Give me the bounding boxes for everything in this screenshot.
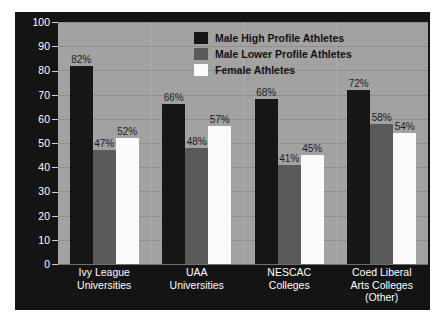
y-axis-tick: 80 <box>38 64 58 76</box>
bar[interactable]: 66% <box>162 104 185 264</box>
bar[interactable]: 41% <box>278 165 301 264</box>
bar-value-label: 66% <box>164 92 184 103</box>
bar[interactable]: 68% <box>255 99 278 264</box>
y-axis-tick-label: 20 <box>38 210 52 222</box>
bar-value-label: 72% <box>349 78 369 89</box>
bar[interactable]: 72% <box>347 90 370 264</box>
x-axis-category-line: Arts Colleges <box>336 279 429 292</box>
legend-item[interactable]: Female Athletes <box>194 63 352 76</box>
y-axis-tick-label: 60 <box>38 113 52 125</box>
y-axis-tick-label: 100 <box>32 16 52 28</box>
x-axis-category-line: NESCAC <box>243 266 336 279</box>
y-axis-tick: 10 <box>38 234 58 246</box>
plot-area: 82%47%52%66%48%57%68%41%45%72%58%54% Mal… <box>58 22 428 264</box>
y-axis-tick: 0 <box>44 258 58 270</box>
y-axis-tick-label: 80 <box>38 64 52 76</box>
bar-value-label: 58% <box>372 112 392 123</box>
x-axis-category-line: Universities <box>151 279 244 292</box>
legend-color-swatch <box>194 32 208 44</box>
y-axis-tick: 20 <box>38 210 58 222</box>
bar-value-label: 57% <box>210 114 230 125</box>
y-axis-tick: 40 <box>38 161 58 173</box>
y-axis-tick-label: 10 <box>38 234 52 246</box>
x-axis-category-label: Ivy LeagueUniversities <box>58 266 151 291</box>
y-axis-tick-label: 50 <box>38 137 52 149</box>
x-axis-category-label: Coed LiberalArts Colleges(Other) <box>336 266 429 304</box>
y-axis-tick-label: 0 <box>44 258 52 270</box>
bar-value-label: 45% <box>302 143 322 154</box>
bar[interactable]: 52% <box>116 138 139 264</box>
y-axis-tick-label: 40 <box>38 161 52 173</box>
y-axis-tick: 30 <box>38 185 58 197</box>
bar-value-label: 48% <box>187 136 207 147</box>
x-axis-category-line: Coed Liberal <box>336 266 429 279</box>
y-axis-tick-label: 30 <box>38 185 52 197</box>
bar-value-label: 82% <box>71 54 91 65</box>
x-axis-category-line: Universities <box>58 279 151 292</box>
chart-legend: Male High Profile AthletesMale Lower Pro… <box>194 31 352 76</box>
gridline <box>58 264 428 265</box>
legend-label: Male Lower Profile Athletes <box>215 48 352 60</box>
bar-value-label: 52% <box>117 126 137 137</box>
bar[interactable]: 57% <box>208 126 231 264</box>
legend-color-swatch <box>194 48 208 60</box>
bar[interactable]: 45% <box>301 155 324 264</box>
bar-value-label: 41% <box>279 153 299 164</box>
bar[interactable]: 58% <box>370 124 393 264</box>
bar-value-label: 68% <box>256 87 276 98</box>
bar[interactable]: 47% <box>93 150 116 264</box>
x-axis-category-label: UAAUniversities <box>151 266 244 291</box>
y-axis-tick-label: 70 <box>38 89 52 101</box>
y-axis-tick-labels: 0102030405060708090100 <box>15 12 58 264</box>
x-axis-category-line: Colleges <box>243 279 336 292</box>
legend-label: Male High Profile Athletes <box>215 32 344 44</box>
x-axis-category-labels: Ivy LeagueUniversitiesUAAUniversitiesNES… <box>58 266 428 310</box>
x-axis-category-line: Ivy League <box>58 266 151 279</box>
legend-color-swatch <box>194 64 208 76</box>
x-axis-category-line: (Other) <box>336 291 429 304</box>
y-axis-tick: 100 <box>32 16 58 28</box>
bar-value-label: 47% <box>94 138 114 149</box>
y-axis-tick: 90 <box>38 40 58 52</box>
bar-value-label: 54% <box>395 121 415 132</box>
x-axis-category-label: NESCACColleges <box>243 266 336 291</box>
legend-item[interactable]: Male Lower Profile Athletes <box>194 47 352 60</box>
bar-chart-figure: Percent of Athletes Who Are Recruited 01… <box>15 12 430 310</box>
legend-item[interactable]: Male High Profile Athletes <box>194 31 352 44</box>
bar[interactable]: 54% <box>393 133 416 264</box>
bar-group: 82%47%52% <box>58 22 151 264</box>
y-axis-tick: 70 <box>38 89 58 101</box>
bar[interactable]: 82% <box>70 66 93 264</box>
y-axis-tick: 50 <box>38 137 58 149</box>
bar[interactable]: 48% <box>185 148 208 264</box>
legend-label: Female Athletes <box>215 64 295 76</box>
x-axis-category-line: UAA <box>151 266 244 279</box>
y-axis-tick: 60 <box>38 113 58 125</box>
y-axis-tick-label: 90 <box>38 40 52 52</box>
